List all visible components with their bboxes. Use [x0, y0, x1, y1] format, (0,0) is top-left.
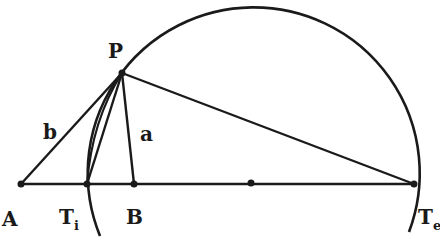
- point-center: [248, 180, 255, 187]
- segment-PTi: [87, 73, 122, 184]
- segment-PA-b: [21, 73, 122, 184]
- apollonius-circle-diagram: P A Ti B Te a b: [0, 0, 440, 238]
- point-B: [131, 181, 138, 188]
- point-Te: [411, 181, 418, 188]
- point-A: [18, 181, 25, 188]
- segment-PTe: [122, 73, 414, 184]
- label-P: P: [108, 39, 123, 63]
- label-Te: Te: [418, 205, 440, 233]
- apollonius-circle-arc: [88, 7, 420, 236]
- label-a: a: [140, 122, 153, 146]
- label-A: A: [1, 207, 18, 231]
- point-Ti: [84, 181, 91, 188]
- label-b: b: [43, 120, 57, 144]
- point-P: [119, 70, 126, 77]
- segment-PB-a: [122, 73, 134, 184]
- label-B: B: [126, 205, 143, 229]
- label-Ti: Ti: [59, 205, 79, 233]
